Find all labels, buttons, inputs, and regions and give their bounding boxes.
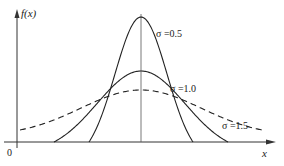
legend-sigma-1-5: σ =1.5: [222, 120, 248, 131]
legend-sigma-0-5: σ =0.5: [156, 28, 182, 39]
normal-distribution-chart: f(x) x 0 σ =0.5 σ =1.0 σ =1.5: [0, 0, 284, 166]
legend-sigma-1-0: σ =1.0: [170, 83, 196, 94]
y-axis-label: f(x): [21, 7, 37, 20]
y-axis-arrow-icon: [15, 9, 20, 18]
x-axis-arrow-icon: [266, 140, 276, 145]
x-axis-label: x: [261, 147, 267, 159]
origin-label: 0: [7, 147, 12, 158]
